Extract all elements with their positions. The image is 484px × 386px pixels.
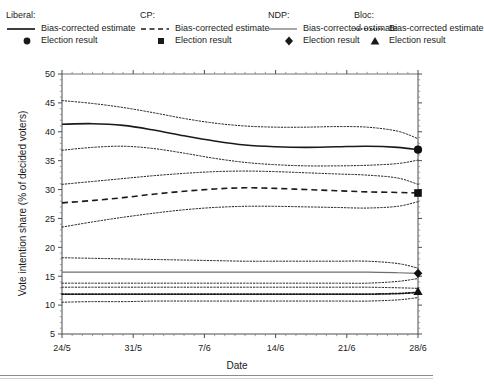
chart-series-line (62, 188, 418, 203)
chart-series-line (62, 279, 418, 284)
x-tick-label: 14/6 (267, 343, 285, 353)
y-tick-label: 45 (45, 98, 55, 108)
chart-series-line (62, 146, 418, 166)
chart-series-line (62, 287, 418, 288)
y-tick-label: 5 (50, 329, 55, 339)
chart-series-line (62, 272, 418, 273)
x-axis-title: Date (197, 360, 277, 371)
y-tick-label: 25 (45, 214, 55, 224)
x-tick-label: 24/5 (53, 343, 71, 353)
chart-series-line (62, 101, 418, 139)
y-tick-label: 10 (45, 300, 55, 310)
chart-series-line (62, 292, 418, 294)
y-tick-label: 30 (45, 185, 55, 195)
chart-series-line (62, 258, 418, 268)
chart-series-line (62, 202, 418, 227)
footer-divider (0, 375, 433, 376)
election-result-marker (414, 189, 422, 197)
x-tick-label: 31/5 (124, 343, 142, 353)
y-tick-label: 35 (45, 156, 55, 166)
y-tick-label: 50 (45, 69, 55, 79)
x-tick-label: 7/6 (198, 343, 211, 353)
election-result-marker (414, 146, 422, 154)
footer-divider-2 (0, 378, 433, 379)
chart-series-line (62, 171, 418, 184)
y-tick-label: 15 (45, 272, 55, 282)
y-axis-title: Vote intention share (% of decided voter… (17, 89, 28, 319)
x-tick-label: 21/6 (338, 343, 356, 353)
y-tick-label: 20 (45, 243, 55, 253)
y-tick-label: 40 (45, 127, 55, 137)
x-tick-label: 28/6 (409, 343, 427, 353)
chart-series-line (62, 298, 418, 303)
